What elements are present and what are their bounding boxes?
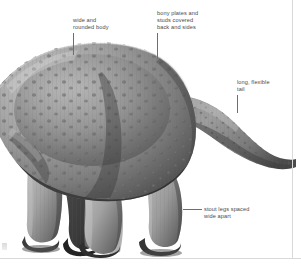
page-corner-mark — [2, 243, 7, 250]
leader-line-wide-body — [73, 33, 74, 55]
leader-line-stout-legs — [183, 209, 202, 210]
dinosaur-illustration — [0, 0, 301, 258]
leader-line-bony-plates — [157, 33, 158, 59]
dinosaur-anatomy-figure: wide and rounded body bony plates and st… — [0, 0, 301, 270]
annotation-stout-legs: stout legs spaced wide apart — [204, 206, 249, 220]
page-frame-bottom-rule — [0, 258, 301, 259]
annotation-long-flexible-tail: long, flexible tail — [237, 79, 270, 93]
leader-line-long-tail — [237, 95, 238, 113]
page-frame-right-rule — [292, 0, 293, 258]
annotation-wide-rounded-body: wide and rounded body — [73, 17, 109, 31]
annotation-bony-plates-studs: bony plates and studs covered back and s… — [157, 10, 198, 32]
